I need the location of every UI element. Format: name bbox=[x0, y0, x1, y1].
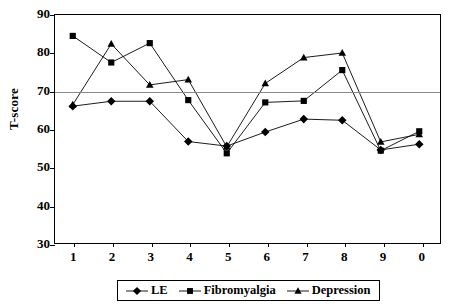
square-marker-icon bbox=[224, 150, 230, 156]
square-marker-icon bbox=[262, 99, 268, 105]
triangle-marker-icon bbox=[184, 76, 192, 83]
y-axis-tick-mark bbox=[50, 245, 55, 246]
series-le bbox=[68, 97, 423, 154]
x-axis-tick-label: 2 bbox=[109, 249, 116, 265]
x-axis-tick-label: 0 bbox=[418, 249, 425, 265]
y-axis-tick-labels: 30405060708090 bbox=[20, 0, 50, 306]
x-axis-tick-label: 3 bbox=[148, 249, 155, 265]
series-line bbox=[73, 44, 420, 147]
y-axis-tick-label: 40 bbox=[22, 199, 50, 212]
x-axis-tick-mark bbox=[229, 243, 230, 247]
x-axis-tick-label: 5 bbox=[225, 249, 232, 265]
square-marker-icon bbox=[301, 98, 307, 104]
square-marker-icon bbox=[339, 67, 345, 73]
y-axis-tick-mark bbox=[50, 207, 55, 208]
diamond-marker-icon bbox=[299, 115, 308, 124]
square-marker-icon bbox=[179, 285, 201, 297]
y-axis-tick-mark bbox=[50, 53, 55, 54]
x-axis-tick-mark bbox=[384, 243, 385, 247]
y-axis-tick-mark bbox=[50, 130, 55, 131]
x-axis-tick-mark bbox=[152, 243, 153, 247]
diamond-marker-icon bbox=[261, 128, 270, 137]
x-axis-tick-label: 4 bbox=[186, 249, 193, 265]
triangle-marker-icon bbox=[107, 40, 115, 47]
x-axis-tick-mark bbox=[345, 243, 346, 247]
legend-item-le[interactable]: LE bbox=[126, 283, 168, 298]
diamond-marker-icon bbox=[415, 140, 424, 149]
legend-item-fibromyalgia[interactable]: Fibromyalgia bbox=[179, 283, 276, 298]
data-series-layer bbox=[55, 15, 440, 243]
x-axis-tick-mark bbox=[423, 243, 424, 247]
series-line bbox=[73, 36, 420, 153]
reference-line bbox=[55, 92, 440, 93]
legend-label: Depression bbox=[312, 283, 371, 298]
y-axis-tick-mark bbox=[50, 15, 55, 16]
y-axis-tick-label: 60 bbox=[22, 122, 50, 135]
x-axis-tick-label: 1 bbox=[70, 249, 77, 265]
x-axis-tick-label: 8 bbox=[341, 249, 348, 265]
plot-area bbox=[54, 14, 441, 244]
y-axis-tick-label: 80 bbox=[22, 45, 50, 58]
triangle-marker-icon bbox=[261, 79, 269, 86]
diamond-marker-icon bbox=[126, 285, 148, 297]
legend-label: Fibromyalgia bbox=[204, 283, 276, 298]
triangle-marker-icon bbox=[287, 285, 309, 297]
triangle-marker-icon bbox=[338, 49, 346, 56]
square-marker-icon bbox=[70, 33, 76, 39]
square-marker-icon bbox=[187, 288, 193, 294]
x-axis-tick-mark bbox=[190, 243, 191, 247]
y-axis-tick-label: 30 bbox=[22, 237, 50, 250]
x-axis-tick-mark bbox=[268, 243, 269, 247]
legend-item-depression[interactable]: Depression bbox=[287, 283, 371, 298]
diamond-marker-icon bbox=[133, 286, 141, 294]
y-axis-tick-mark bbox=[50, 168, 55, 169]
series-fibromyalgia bbox=[70, 33, 423, 157]
line-chart: T-score 30405060708090 1234567890 LEFibr… bbox=[0, 0, 451, 306]
x-axis-tick-mark bbox=[74, 243, 75, 247]
triangle-marker-icon bbox=[294, 287, 301, 293]
square-marker-icon bbox=[378, 148, 384, 154]
legend-label: LE bbox=[151, 283, 168, 298]
triangle-marker-icon bbox=[69, 101, 77, 108]
square-marker-icon bbox=[185, 97, 191, 103]
x-axis-tick-mark bbox=[113, 243, 114, 247]
y-axis-tick-label: 70 bbox=[22, 84, 50, 97]
diamond-marker-icon bbox=[338, 116, 347, 125]
x-axis-tick-labels: 1234567890 bbox=[54, 249, 441, 271]
diamond-marker-icon bbox=[107, 97, 116, 106]
x-axis-tick-mark bbox=[307, 243, 308, 247]
x-axis-tick-label: 7 bbox=[302, 249, 309, 265]
square-marker-icon bbox=[108, 59, 114, 65]
square-marker-icon bbox=[147, 40, 153, 46]
x-axis-tick-label: 9 bbox=[380, 249, 387, 265]
x-axis-tick-label: 6 bbox=[264, 249, 271, 265]
series-depression bbox=[69, 40, 423, 150]
chart-legend: LEFibromyalgiaDepression bbox=[117, 280, 380, 301]
y-axis-tick-label: 50 bbox=[22, 160, 50, 173]
y-axis-tick-label: 90 bbox=[22, 7, 50, 20]
series-line bbox=[73, 101, 420, 150]
